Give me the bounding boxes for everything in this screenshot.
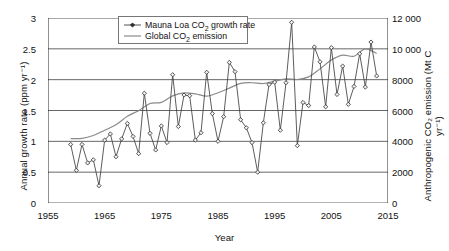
data-point-marker [301, 100, 305, 104]
data-point-marker [210, 111, 214, 115]
data-point-marker [148, 131, 152, 135]
x-axis-tick-label: 1985 [207, 210, 228, 221]
data-point-marker [307, 103, 311, 107]
x-axis-tick-label: 2005 [321, 210, 342, 221]
right-axis-tick-label: 2000 [392, 167, 413, 178]
data-point-marker [154, 148, 158, 152]
data-point-marker [125, 121, 129, 125]
data-point-marker [318, 60, 322, 64]
data-point-marker [375, 74, 379, 78]
data-point-marker [358, 52, 362, 56]
data-point-marker [335, 92, 339, 96]
data-point-marker [171, 73, 175, 77]
co2-growth-emission-chart: 00.511.522.53 0200040006000800010 00012 … [0, 0, 449, 251]
legend-item-label: Global CO2 emission [145, 31, 227, 43]
left-axis-tick-label: 0 [31, 198, 36, 209]
data-point-marker [352, 84, 356, 88]
left-axis-tick-label: 3 [31, 13, 36, 24]
x-axis-tick-label: 2015 [377, 210, 398, 221]
data-point-marker [284, 81, 288, 85]
right-axis-tick-label: 12 000 [392, 13, 421, 24]
right-axis-tick-label: 10 000 [392, 43, 421, 54]
data-point-marker [222, 115, 226, 119]
x-axis-tick-label: 1955 [37, 210, 58, 221]
data-point-marker [69, 142, 73, 146]
x-axis-tick-label: 1995 [264, 210, 285, 221]
left-axis-tick-label: 2 [31, 74, 36, 85]
x-axis-tick-label: 1965 [94, 210, 115, 221]
x-axis-title: Year [0, 232, 449, 243]
data-point-marker [142, 91, 146, 95]
data-point-marker [341, 64, 345, 68]
data-point-marker [233, 70, 237, 74]
data-point-marker [216, 139, 220, 143]
data-point-marker [80, 142, 84, 146]
right-axis-tick-label: 0 [392, 198, 397, 209]
x-axis-tick-label: 1975 [151, 210, 172, 221]
data-point-marker [137, 152, 141, 156]
data-point-marker [227, 60, 231, 64]
data-point-marker [131, 134, 135, 138]
left-axis-title: Annual growth rate (ppm yr⁻¹) [18, 51, 29, 201]
data-point-marker [91, 158, 95, 162]
plot-area [48, 18, 388, 203]
data-point-marker [188, 94, 192, 98]
data-point-marker [363, 85, 367, 89]
right-axis-title: Anthropogenic CO₂ emission (Mt C yr⁻¹) [422, 46, 444, 206]
data-point-marker [114, 155, 118, 159]
legend: Mauna Loa CO2 growth rateGlobal CO2 emis… [118, 16, 248, 44]
right-axis-tick-label: 8000 [392, 74, 413, 85]
emission-line [71, 49, 377, 139]
data-point-marker [256, 170, 260, 174]
data-point-marker [159, 124, 163, 128]
data-point-marker [278, 128, 282, 132]
left-axis-tick-label: 1 [31, 136, 36, 147]
data-point-marker [324, 105, 328, 109]
data-point-marker [290, 20, 294, 24]
data-point-marker [295, 144, 299, 148]
data-point-marker [346, 102, 350, 106]
right-axis-tick-label: 6000 [392, 105, 413, 116]
data-point-marker [261, 121, 265, 125]
x-axis-tick-row: 1955196519751985199520052015 [0, 208, 449, 228]
data-point-marker [86, 161, 90, 165]
right-axis-tick-label: 4000 [392, 136, 413, 147]
data-point-marker [205, 70, 209, 74]
data-point-marker [369, 40, 373, 44]
data-point-marker [97, 184, 101, 188]
chart-canvas [48, 18, 388, 203]
legend-item-label: Mauna Loa CO2 growth rate [145, 20, 255, 32]
data-point-marker [176, 124, 180, 128]
data-point-marker [120, 137, 124, 141]
